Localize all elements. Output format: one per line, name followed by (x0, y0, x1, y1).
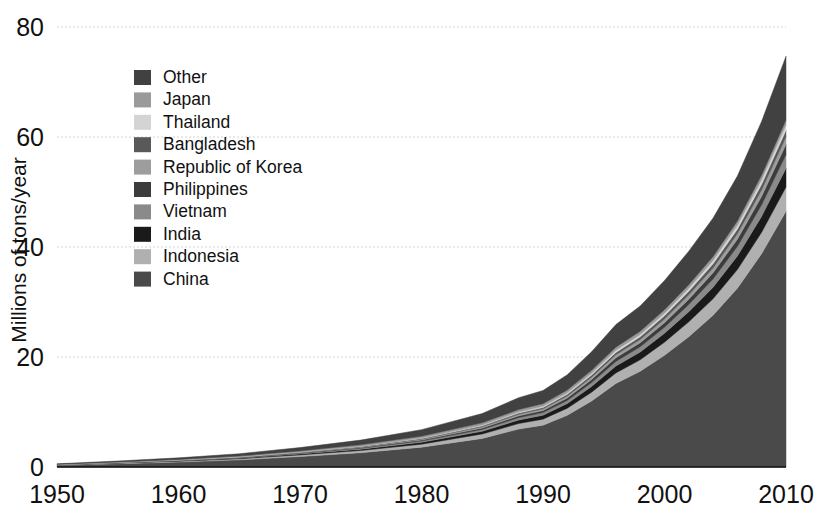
legend-swatch (134, 92, 151, 107)
x-axis-tick-label: 1970 (272, 480, 328, 508)
legend-label: Republic of Korea (163, 157, 302, 177)
legend-swatch (134, 160, 151, 175)
y-axis-tick-label: 20 (16, 343, 44, 371)
legend-swatch (134, 272, 151, 287)
legend-label: Vietnam (163, 201, 227, 221)
legend-swatch (134, 227, 151, 242)
y-axis-tick-label: 0 (30, 453, 44, 481)
x-axis-tick-label: 1950 (29, 480, 85, 508)
legend-label: Other (163, 67, 207, 87)
legend-swatch (134, 137, 151, 152)
x-axis-tick-label: 1980 (394, 480, 450, 508)
legend-swatch (134, 204, 151, 219)
y-axis-title-text: Millions of tons/year (7, 157, 30, 343)
x-axis-tick-label: 1960 (151, 480, 207, 508)
y-axis-tick-label: 60 (16, 123, 44, 151)
stacked-area-chart: 020406080 1950196019701980199020002010 M… (0, 0, 820, 529)
legend-swatch (134, 182, 151, 197)
x-axis-tick-label: 2010 (758, 480, 814, 508)
chart-figure: 020406080 1950196019701980199020002010 M… (0, 0, 820, 529)
legend-label: Bangladesh (163, 134, 255, 154)
legend-swatch (134, 70, 151, 85)
legend-label: Japan (163, 89, 211, 109)
legend-label: Indonesia (163, 246, 239, 266)
legend-label: Philippines (163, 179, 248, 199)
y-axis-tick-label: 80 (16, 13, 44, 41)
legend-label: India (163, 224, 201, 244)
x-axis-tick-label: 1990 (515, 480, 571, 508)
legend-label: Thailand (163, 112, 230, 132)
x-axis-tick-label: 2000 (637, 480, 693, 508)
legend-swatch (134, 115, 151, 130)
y-axis-title: Millions of tons/year (7, 157, 30, 343)
legend-swatch (134, 249, 151, 264)
legend-label: China (163, 269, 209, 289)
